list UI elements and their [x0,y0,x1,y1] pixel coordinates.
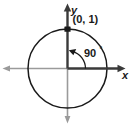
degree-symbol: ° [100,46,103,53]
terminal-point-marker [64,26,70,31]
angle-measure-label: 90 ° [84,46,103,60]
y-axis-down-arrowhead [65,116,71,124]
point-coordinate-label: (0, 1) [73,13,99,25]
angle-value-text: 90 [84,47,96,59]
unit-circle-diagram: y x (0, 1) 90 ° [0,0,134,126]
x-axis-label: x [121,69,129,81]
coordinate-plane-svg: y x (0, 1) 90 ° [0,0,134,126]
x-axis-positive [68,65,126,72]
angle-arc-group [69,49,86,69]
x-axis-negative [3,65,68,71]
y-axis-negative [65,69,71,124]
x-axis-left-arrowhead [3,65,11,71]
